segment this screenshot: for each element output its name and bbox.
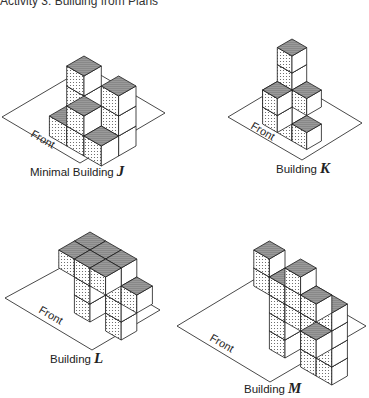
- building-j-caption: Minimal BuildingJ: [30, 163, 124, 180]
- building-letter: J: [117, 163, 125, 179]
- building-j-drawing: Front: [2, 56, 165, 166]
- building-k-caption: BuildingK: [276, 160, 330, 177]
- building-letter: M: [288, 380, 301, 396]
- caption-text: Minimal Building: [30, 166, 114, 178]
- building-l-caption: BuildingL: [50, 350, 103, 367]
- building-k-drawing: Front: [228, 39, 362, 160]
- caption-text: Building: [276, 163, 317, 175]
- building-letter: L: [94, 350, 103, 366]
- caption-text: Building: [244, 383, 285, 395]
- building-m-drawing: Front: [177, 241, 366, 385]
- caption-text: Building: [50, 353, 91, 365]
- building-m-caption: BuildingM: [244, 380, 301, 397]
- building-l-drawing: Front: [5, 232, 160, 350]
- isometric-buildings-diagram: Front Front Front Front: [0, 0, 369, 398]
- building-letter: K: [320, 160, 330, 176]
